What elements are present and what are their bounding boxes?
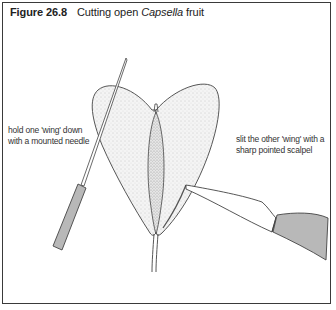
scalpel-handle [273, 213, 328, 260]
fruit-left-wing [92, 86, 156, 236]
mounted-needle-handle [53, 184, 86, 250]
scalpel-annotation-line2: sharp pointed scalpel [236, 145, 332, 156]
needle-annotation-line1: hold one 'wing' down [8, 125, 108, 136]
scalpel-blade [186, 185, 276, 232]
fruit-right-wing [156, 84, 219, 235]
scalpel-annotation: slit the other 'wing' with a sharp point… [236, 134, 332, 156]
scalpel-annotation-line1: slit the other 'wing' with a [236, 134, 332, 145]
needle-annotation: hold one 'wing' down with a mounted need… [8, 125, 108, 147]
needle-annotation-line2: with a mounted needle [8, 136, 108, 147]
fruit-stalk [152, 234, 158, 272]
